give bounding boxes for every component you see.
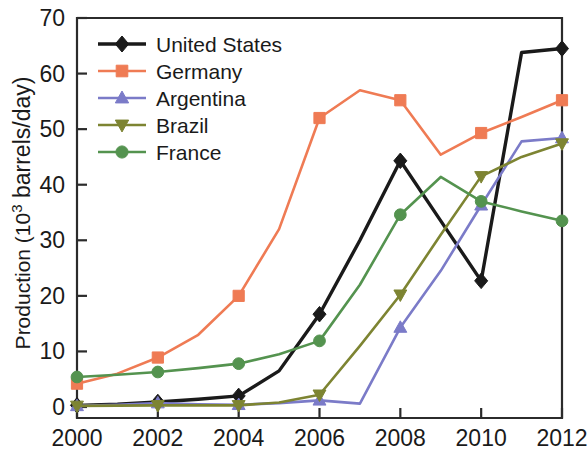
- y-tick-label-0: 0: [52, 394, 65, 420]
- legend-item-france[interactable]: France: [98, 141, 221, 164]
- marker-france-2002: [152, 366, 164, 378]
- legend-item-brazil[interactable]: Brazil: [98, 114, 209, 137]
- chart-legend: United StatesGermanyArgentinaBrazilFranc…: [98, 33, 282, 164]
- legend-label-germany: Germany: [156, 60, 243, 83]
- y-tick-label-70: 70: [39, 5, 65, 31]
- x-tick-label-2008: 2008: [375, 425, 426, 451]
- legend-label-united-states: United States: [156, 33, 282, 56]
- marker-germany-2002: [152, 352, 163, 363]
- marker-france-2000: [71, 371, 83, 383]
- y-axis-tick-labels: 010203040506070: [39, 5, 65, 420]
- y-axis-title-superscript: 3: [8, 204, 25, 212]
- series-argentina: [71, 131, 569, 410]
- legend-label-argentina: Argentina: [156, 87, 246, 110]
- marker-france-2008: [394, 209, 406, 221]
- series-line-brazil: [77, 144, 562, 406]
- marker-germany-2012: [556, 95, 567, 106]
- marker-france-2012: [556, 215, 568, 227]
- y-axis-title-part-tail: barrels/day): [9, 77, 35, 205]
- legend-item-germany[interactable]: Germany: [98, 60, 243, 83]
- legend-marker-united-states-icon: [115, 36, 128, 52]
- marker-france-2006: [314, 335, 326, 347]
- x-axis-tick-labels: 2000200220042006200820102012: [51, 425, 587, 451]
- series-united-states: [70, 41, 568, 413]
- data-series-layer: [70, 41, 568, 413]
- y-tick-label-50: 50: [39, 116, 65, 142]
- marker-united-states-2012: [555, 41, 568, 57]
- x-axis-ticks: [77, 408, 562, 418]
- marker-france-2004: [233, 358, 245, 370]
- line-chart-canvas: 010203040506070 200020022004200620082010…: [0, 0, 587, 458]
- legend-marker-france-icon: [116, 146, 128, 158]
- y-tick-label-30: 30: [39, 227, 65, 253]
- y-tick-label-20: 20: [39, 283, 65, 309]
- legend-item-united-states[interactable]: United States: [98, 33, 282, 56]
- marker-germany-2008: [395, 95, 406, 106]
- series-line-united-states: [77, 49, 562, 406]
- plot-frame: [77, 18, 562, 418]
- marker-germany-2010: [476, 127, 487, 138]
- y-axis-title-text: Production (103 barrels/day): [8, 77, 35, 350]
- x-tick-label-2004: 2004: [213, 425, 264, 451]
- legend-marker-germany-icon: [116, 65, 128, 77]
- marker-germany-2006: [314, 112, 325, 123]
- series-line-argentina: [77, 138, 562, 406]
- x-tick-label-2000: 2000: [51, 425, 102, 451]
- x-tick-label-2012: 2012: [536, 425, 587, 451]
- chart-figure: 010203040506070 200020022004200620082010…: [0, 0, 587, 458]
- legend-item-argentina[interactable]: Argentina: [98, 87, 246, 110]
- y-tick-label-40: 40: [39, 172, 65, 198]
- y-tick-label-60: 60: [39, 61, 65, 87]
- y-tick-label-10: 10: [39, 338, 65, 364]
- x-tick-label-2002: 2002: [132, 425, 183, 451]
- legend-label-brazil: Brazil: [156, 114, 209, 137]
- legend-label-france: France: [156, 141, 221, 164]
- axis-frame: [77, 18, 562, 418]
- y-axis-title-part-main: Production (10: [11, 213, 34, 350]
- x-tick-label-2006: 2006: [294, 425, 345, 451]
- y-axis-title-group: Production (103 barrels/day): [8, 77, 35, 350]
- y-axis-title: Production (103 barrels/day): [8, 77, 35, 350]
- x-tick-label-2010: 2010: [456, 425, 507, 451]
- marker-germany-2004: [233, 290, 244, 301]
- series-brazil: [71, 139, 569, 413]
- y-axis-ticks: [77, 18, 87, 407]
- marker-france-2010: [475, 196, 487, 208]
